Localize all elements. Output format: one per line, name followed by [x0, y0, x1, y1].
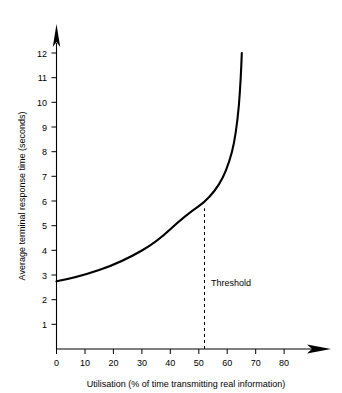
x-tick-label: 40	[165, 358, 175, 368]
x-axis-title: Utilisation (% of time transmitting real…	[87, 379, 286, 389]
y-tick-label: 11	[38, 73, 47, 83]
response-time-curve	[57, 53, 242, 281]
x-tick-label: 20	[108, 358, 118, 368]
y-tick-label: 3	[42, 271, 47, 281]
y-axis-title: Average terminal response time (seconds)	[17, 112, 27, 281]
response-time-chart: 12 11 10 9 8 7 6 5 4 3 2 1 0	[0, 0, 342, 393]
y-tick-label: 7	[42, 172, 47, 182]
y-tick-label: 4	[42, 246, 47, 256]
y-tick-label: 8	[42, 147, 47, 157]
y-tick-label: 9	[42, 123, 47, 133]
chart-canvas: 12 11 10 9 8 7 6 5 4 3 2 1 0	[0, 0, 342, 393]
x-tick-label: 0	[54, 358, 59, 368]
y-axis-ticks	[52, 53, 57, 324]
threshold-label: Threshold	[211, 278, 251, 288]
x-axis-ticks	[57, 349, 285, 354]
y-tick-label: 5	[42, 221, 47, 231]
x-axis-tick-labels: 0 10 20 30 40 50 60 70 80	[54, 358, 289, 368]
x-tick-label: 70	[251, 358, 261, 368]
y-tick-label: 12	[37, 49, 47, 59]
y-tick-label: 1	[42, 320, 47, 330]
y-axis-tick-labels: 12 11 10 9 8 7 6 5 4 3 2 1	[37, 49, 47, 330]
x-tick-label: 50	[194, 358, 204, 368]
x-tick-label: 10	[80, 358, 90, 368]
y-tick-label: 6	[42, 197, 47, 207]
x-tick-label: 60	[222, 358, 232, 368]
x-tick-label: 30	[137, 358, 147, 368]
y-tick-label: 2	[42, 295, 47, 305]
x-tick-label: 80	[279, 358, 289, 368]
y-tick-label: 10	[37, 98, 47, 108]
